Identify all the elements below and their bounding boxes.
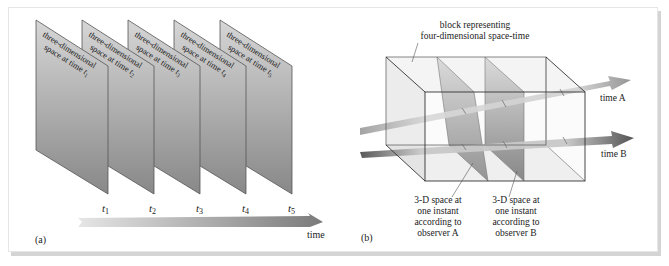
- tick-t1: t1: [102, 202, 109, 216]
- svg-text:according to: according to: [492, 217, 539, 227]
- svg-text:according to: according to: [414, 217, 461, 227]
- tick-t2: t2: [149, 202, 156, 216]
- panel-b-label: (b): [361, 232, 373, 244]
- panel-b: block representing four-dimensional spac…: [360, 20, 634, 244]
- time-axis-label: time: [307, 229, 325, 240]
- tick-t5: t5: [288, 202, 295, 216]
- tick-t3: t3: [196, 202, 203, 216]
- panel-a: three-dimensional space at time t1 three…: [35, 20, 325, 246]
- svg-text:one instant: one instant: [495, 206, 537, 216]
- time-a-label: time A: [600, 93, 626, 103]
- block-label-line1: block representing: [440, 20, 511, 30]
- svg-text:observer A: observer A: [417, 228, 459, 238]
- slice-a-caption: 3-D space at one instant according to ob…: [414, 195, 462, 238]
- tick-t4: t4: [242, 202, 249, 216]
- svg-text:3-D space at: 3-D space at: [414, 195, 462, 205]
- panel-a-label: (a): [35, 234, 46, 246]
- svg-text:one instant: one instant: [417, 206, 459, 216]
- slice-b-caption: 3-D space at one instant according to ob…: [492, 195, 540, 238]
- svg-text:observer B: observer B: [495, 228, 536, 238]
- figure-canvas: three-dimensional space at time t1 three…: [0, 0, 669, 266]
- time-b-label: time B: [601, 149, 627, 159]
- block-label-line2: four-dimensional space-time: [421, 31, 530, 41]
- svg-text:3-D space at: 3-D space at: [492, 195, 540, 205]
